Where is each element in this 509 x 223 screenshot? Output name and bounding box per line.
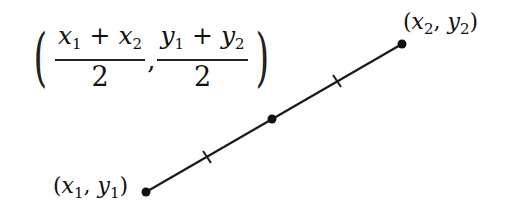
plus-operator: + <box>82 21 119 50</box>
open-paren: ( <box>53 173 62 198</box>
sub-y: 2 <box>460 20 470 38</box>
endpoint-2-dot <box>398 40 407 49</box>
midpoint-formula: ( x1 + x2 2 , y1 + y2 2 ) <box>28 22 275 92</box>
comma: , <box>84 173 98 198</box>
comma: , <box>434 9 448 34</box>
sub-x: 1 <box>74 184 84 202</box>
y-fraction: y1 + y2 2 <box>157 21 247 93</box>
sub-y: 1 <box>110 184 120 202</box>
tick-mark-lower <box>203 151 211 163</box>
var-y1: y <box>160 21 174 50</box>
y-fraction-denominator: 2 <box>194 61 211 93</box>
close-paren: ) <box>120 173 129 198</box>
close-paren: ) <box>470 9 479 34</box>
plus-operator: + <box>184 21 221 50</box>
sub-1: 1 <box>72 35 82 53</box>
y-fraction-numerator: y1 + y2 <box>157 21 247 61</box>
formula-comma: , <box>147 45 155 75</box>
sub-1: 1 <box>175 35 185 53</box>
point-1-label: (x1, y1) <box>53 173 128 202</box>
formula-open-paren: ( <box>34 25 48 89</box>
var-x: x <box>62 173 74 198</box>
var-x: x <box>412 9 424 34</box>
var-x2: x <box>118 21 132 50</box>
endpoint-1-dot <box>142 188 151 197</box>
var-y2: y <box>221 21 235 50</box>
point-2-label: (x2, y2) <box>403 9 478 38</box>
midpoint-dot <box>268 115 277 124</box>
sub-2: 2 <box>133 35 143 53</box>
sub-x: 2 <box>424 20 434 38</box>
x-fraction: x1 + x2 2 <box>55 21 145 93</box>
x-fraction-numerator: x1 + x2 <box>55 21 145 61</box>
var-y: y <box>98 173 110 198</box>
var-y: y <box>448 9 460 34</box>
open-paren: ( <box>403 9 412 34</box>
x-fraction-denominator: 2 <box>91 61 108 93</box>
sub-2: 2 <box>235 35 245 53</box>
formula-close-paren: ) <box>255 25 269 89</box>
var-x1: x <box>58 21 72 50</box>
